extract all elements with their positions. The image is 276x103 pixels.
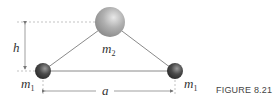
label-m2-sub: 2 [111, 49, 115, 58]
width-dimension [43, 80, 175, 96]
label-m1-left-sub: 1 [30, 84, 34, 93]
label-a: a [102, 84, 109, 97]
label-h: h [13, 41, 20, 54]
figure-caption: FIGURE 8.21 [216, 85, 272, 95]
label-m2-main: m [102, 41, 111, 56]
label-m1-left: m1 [21, 77, 34, 93]
mass-m1-left-sphere [35, 63, 51, 79]
label-m1-right: m1 [184, 77, 197, 93]
label-m1-left-main: m [21, 76, 30, 91]
mass-m2-sphere [95, 7, 125, 37]
label-m1-right-sub: 1 [193, 84, 197, 93]
mass-m1-right-sphere [167, 63, 183, 79]
label-m2: m2 [102, 42, 115, 58]
height-dimension [17, 22, 96, 71]
label-m1-right-main: m [184, 76, 193, 91]
